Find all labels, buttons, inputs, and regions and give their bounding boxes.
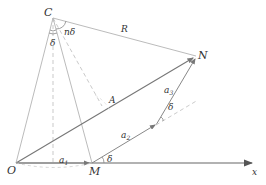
label-A: A (108, 95, 116, 105)
label-R: R (120, 24, 128, 34)
vector-A (16, 58, 193, 163)
angle-arc-delta-C-inner (50, 30, 56, 31)
geometry-diagram: C N O M x R A nδ δ δ δ a1 a2 a3 (0, 0, 266, 185)
angle-arc-delta-M (102, 157, 104, 163)
label-delta-C: δ (50, 38, 55, 48)
label-a1: a1 (59, 155, 68, 166)
line-C-O (16, 18, 53, 163)
dashed-extension-a2 (156, 100, 198, 125)
label-a3: a3 (164, 85, 173, 96)
line-C-M (53, 18, 92, 163)
label-C: C (44, 6, 53, 19)
dashed-C-to-bend (53, 18, 102, 106)
label-M: M (88, 165, 101, 178)
label-a2: a2 (121, 130, 130, 141)
label-N: N (197, 49, 208, 62)
dashed-arc-A (95, 95, 110, 110)
label-delta-bend: δ (168, 102, 173, 112)
label-O: O (7, 164, 16, 177)
label-delta-M: δ (107, 154, 112, 164)
label-x: x (252, 167, 257, 177)
angle-arc-delta-bend (161, 117, 163, 121)
label-n-delta: nδ (64, 27, 75, 37)
dashed-arc-O-M (16, 163, 92, 168)
